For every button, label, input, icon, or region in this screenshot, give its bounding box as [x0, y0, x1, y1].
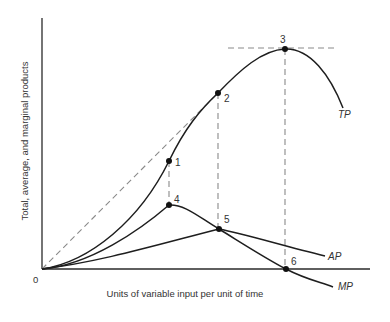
y-axis-label: Total, average, and marginal products — [19, 61, 30, 220]
tp-label: TP — [338, 109, 351, 120]
point-1 — [166, 158, 172, 164]
origin-label: 0 — [33, 274, 38, 285]
mp-curve — [42, 205, 333, 287]
ap-label: AP — [327, 251, 342, 262]
point-4 — [166, 202, 172, 208]
point-4-label: 4 — [174, 194, 180, 205]
point-3-label: 3 — [280, 34, 286, 45]
point-6 — [283, 266, 289, 272]
ap-curve — [42, 229, 325, 269]
production-function-diagram: 1 2 3 4 5 6 TP AP MP 0 Units of variable… — [0, 0, 390, 322]
point-1-label: 1 — [175, 157, 181, 168]
mp-label: MP — [338, 281, 353, 292]
ray-from-origin — [42, 93, 218, 269]
point-5 — [216, 226, 222, 232]
point-2 — [215, 90, 221, 96]
point-2-label: 2 — [224, 93, 230, 104]
point-5-label: 5 — [224, 214, 230, 225]
point-3 — [282, 46, 288, 52]
x-axis-label: Units of variable input per unit of time — [107, 288, 264, 299]
point-6-label: 6 — [291, 256, 297, 267]
